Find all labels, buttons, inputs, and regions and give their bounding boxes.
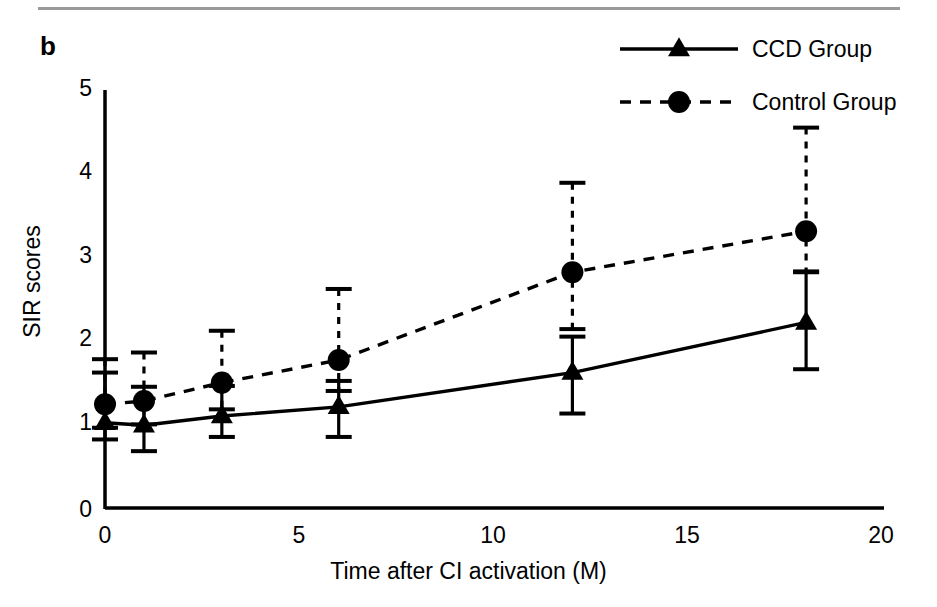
data-series-group (92, 128, 819, 452)
x-tick-label-5: 5 (279, 524, 319, 547)
data-point-marker (133, 390, 155, 412)
series-ccd-group (92, 272, 819, 451)
data-point-marker (561, 261, 583, 283)
figure-panel-b: b 5 4 3 2 1 0 0 5 10 15 20 SIR scores Ti… (0, 0, 937, 607)
y-tick-label-5: 5 (62, 77, 92, 100)
legend-label-control-group: Control Group (752, 91, 896, 114)
y-tick-label-2: 2 (62, 327, 92, 350)
y-tick-label-3: 3 (62, 244, 92, 267)
axes (105, 90, 884, 509)
legend-marks (620, 37, 738, 113)
x-tick-label-15: 15 (667, 524, 707, 547)
series-control-group (92, 128, 819, 428)
error-bar (559, 183, 585, 329)
error-bar (793, 128, 819, 272)
series-line (105, 231, 806, 404)
x-tick-label-0: 0 (85, 524, 125, 547)
y-axis-title: SIR scores (19, 212, 46, 352)
data-point-marker (328, 349, 350, 371)
data-point-marker (795, 311, 817, 330)
legend-marker (668, 37, 690, 56)
error-bar (326, 289, 352, 391)
y-tick-label-1: 1 (62, 411, 92, 434)
legend-marker (668, 91, 690, 113)
legend-sample-control-group (620, 91, 738, 113)
x-tick-label-20: 20 (861, 524, 901, 547)
data-point-marker (795, 220, 817, 242)
data-point-marker (94, 393, 116, 415)
x-tick-label-10: 10 (473, 524, 513, 547)
legend-label-ccd-group: CCD Group (752, 38, 872, 61)
data-point-marker (211, 372, 233, 394)
x-axis-title: Time after CI activation (M) (0, 558, 937, 585)
y-tick-label-4: 4 (62, 160, 92, 183)
y-tick-label-0: 0 (62, 498, 92, 521)
legend-sample-ccd-group (620, 37, 738, 56)
